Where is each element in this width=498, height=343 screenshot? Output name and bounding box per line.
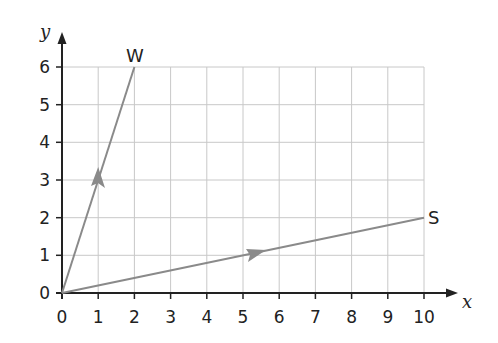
x-axis-arrow-icon (446, 289, 458, 298)
x-tick-label: 3 (165, 307, 176, 327)
y-axis-label: y (39, 21, 51, 42)
y-tick-label: 4 (39, 132, 50, 152)
y-tick-label: 0 (39, 283, 50, 303)
vector-w-label: W (126, 45, 144, 66)
x-tick-label: 7 (310, 307, 321, 327)
x-axis-label: x (462, 291, 472, 312)
x-tick-label: 1 (93, 307, 104, 327)
tick-marks (56, 67, 424, 299)
vector-diagram: 0 1 2 3 4 5 6 7 8 9 10 0 1 2 3 4 5 6 y x… (0, 0, 498, 343)
x-tick-label: 8 (346, 307, 357, 327)
vector-s: S (62, 207, 439, 293)
vector-s-label: S (428, 207, 439, 228)
x-tick-label: 9 (382, 307, 393, 327)
x-tick-label: 0 (57, 307, 68, 327)
axes (56, 42, 448, 299)
x-tick-labels: 0 1 2 3 4 5 6 7 8 9 10 (57, 307, 435, 327)
y-tick-label: 5 (39, 95, 50, 115)
x-tick-label: 4 (201, 307, 212, 327)
y-tick-label: 6 (39, 57, 50, 77)
x-tick-label: 2 (129, 307, 140, 327)
x-tick-label: 5 (238, 307, 249, 327)
x-tick-label: 10 (413, 307, 435, 327)
y-tick-label: 3 (39, 170, 50, 190)
y-tick-label: 2 (39, 208, 50, 228)
y-tick-labels: 0 1 2 3 4 5 6 (39, 57, 50, 303)
y-tick-label: 1 (39, 245, 50, 265)
y-axis-arrow-icon (58, 32, 67, 44)
x-tick-label: 6 (274, 307, 285, 327)
grid (62, 67, 424, 293)
